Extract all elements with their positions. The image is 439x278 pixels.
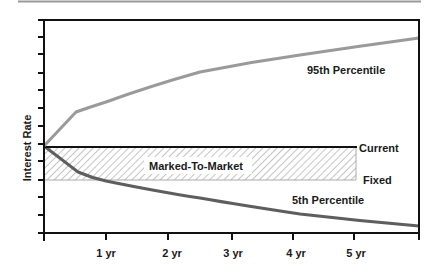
- y-axis-label: Interest Rate: [21, 115, 33, 182]
- x-tick-label-5: 5 yr: [346, 247, 366, 259]
- x-ticks: [106, 233, 354, 240]
- p95-label: 95th Percentile: [307, 64, 385, 76]
- current-label: Current: [359, 142, 399, 154]
- fixed-label: Fixed: [363, 174, 392, 186]
- chart-canvas: Marked-To-Market 1 yr 2 yr 3 yr 4 yr 5 y…: [0, 0, 439, 278]
- x-tick-label-3: 3 yr: [223, 247, 243, 259]
- p95-curve: [44, 38, 419, 146]
- x-tick-label-4: 4 yr: [286, 247, 306, 259]
- mtm-label: Marked-To-Market: [149, 160, 243, 172]
- p5-label: 5th Percentile: [292, 194, 364, 206]
- x-tick-label-2: 2 yr: [162, 247, 182, 259]
- x-tick-label-1: 1 yr: [96, 247, 116, 259]
